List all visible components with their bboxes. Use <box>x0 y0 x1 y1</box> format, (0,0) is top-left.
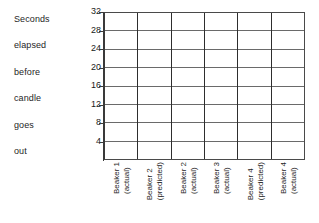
x-tick-label-line: (predicted) <box>255 162 265 200</box>
x-tick-label-line: (actual) <box>121 162 131 194</box>
x-tick-label: Beaker 4 (predicted) <box>238 162 272 223</box>
bar-slot[interactable] <box>205 13 238 159</box>
x-tick-label-line: Beaker 4 <box>279 162 289 194</box>
x-tick-label-line: Beaker 1 <box>111 162 121 194</box>
x-tick-label-line: (predicted) <box>154 162 164 200</box>
x-tick-label-line: (actual) <box>188 162 198 194</box>
x-tick-label-line: (actual) <box>288 162 298 194</box>
x-axis-tick-labels: Beaker 1 (actual) Beaker 2 (predicted) B… <box>104 162 305 223</box>
x-tick-label-line: Beaker 2 <box>145 162 155 200</box>
x-tick-label: Beaker 2 (predicted) <box>138 162 172 223</box>
bar-slot[interactable] <box>138 13 171 159</box>
x-tick-label: Beaker 4 (actual) <box>272 162 306 223</box>
x-tick-label: Beaker 2 (actual) <box>171 162 205 223</box>
x-tick-label-line: Beaker 4 <box>245 162 255 200</box>
plot-area[interactable] <box>104 12 305 160</box>
bar-slot[interactable] <box>272 13 304 159</box>
blank-bar-chart-worksheet: Seconds elapsed before candle goes out 3… <box>0 0 319 223</box>
bar-slot[interactable] <box>105 13 138 159</box>
x-tick-label: Beaker 3 (actual) <box>205 162 239 223</box>
x-tick-label-line: Beaker 3 <box>212 162 222 194</box>
bar-slot[interactable] <box>172 13 205 159</box>
x-tick-label: Beaker 1 (actual) <box>104 162 138 223</box>
bar-slot[interactable] <box>238 13 271 159</box>
x-tick-label-line: Beaker 2 <box>178 162 188 194</box>
vertical-gridlines <box>105 13 304 159</box>
x-tick-label-line: (actual) <box>221 162 231 194</box>
